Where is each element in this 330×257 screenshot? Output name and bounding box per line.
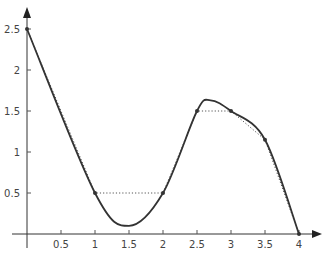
y-axis (23, 7, 31, 248)
x-tick-label: 0.5 (53, 239, 69, 250)
y-axis-arrow-icon (23, 7, 31, 18)
x-tick-label: 1 (92, 239, 98, 250)
x-tick-label: 2.5 (189, 239, 205, 250)
data-point-marker (297, 232, 301, 236)
x-ticks: 0.511.522.533.54 (53, 230, 302, 250)
x-tick-label: 3 (228, 239, 234, 250)
data-point-marker (161, 191, 165, 195)
data-point-marker (263, 138, 267, 142)
x-tick-label: 2 (160, 239, 166, 250)
data-point-marker (93, 191, 97, 195)
y-tick-label: 1.5 (4, 106, 20, 117)
interpolating-curve (27, 29, 299, 234)
y-tick-label: 2.5 (4, 24, 20, 35)
data-point-marker (195, 109, 199, 113)
y-tick-label: 2 (14, 65, 20, 76)
x-axis-arrow-icon (312, 230, 322, 238)
data-point-marker (229, 109, 233, 113)
x-axis (12, 230, 322, 238)
y-tick-label: 0.5 (4, 188, 20, 199)
data-point-marker (25, 27, 29, 31)
x-tick-label: 1.5 (121, 239, 137, 250)
y-tick-label: 1 (14, 147, 20, 158)
x-tick-label: 4 (296, 239, 302, 250)
x-tick-label: 3.5 (257, 239, 273, 250)
chart: 0.511.522.533.54 0.511.522.5 (0, 0, 330, 257)
